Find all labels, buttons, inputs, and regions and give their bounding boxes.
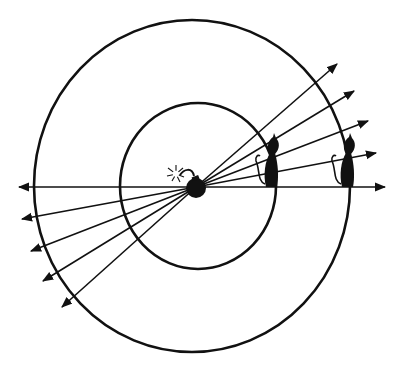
ray-arrow	[62, 187, 196, 307]
diagram-canvas	[0, 0, 398, 373]
bomb-radius-diagram	[0, 0, 398, 373]
ray-arrow	[31, 187, 196, 251]
cat-inner	[256, 133, 279, 187]
